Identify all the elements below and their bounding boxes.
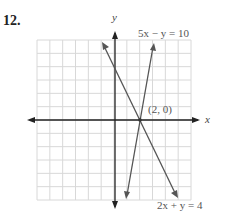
coordinate-plane bbox=[0, 0, 228, 223]
line2-label: 2x + y = 4 bbox=[157, 199, 202, 211]
y-axis-label: y bbox=[112, 11, 117, 23]
intersection-point bbox=[138, 118, 142, 122]
x-axis-label: x bbox=[205, 113, 210, 125]
y-axis-arrow-down-icon bbox=[112, 201, 118, 209]
x-axis-arrow-left-icon bbox=[27, 117, 35, 123]
x-axis-arrow-right-icon bbox=[192, 117, 200, 123]
y-axis-arrow-up-icon bbox=[112, 31, 118, 39]
line1-label: 5x − y = 10 bbox=[138, 27, 189, 39]
point-label: (2, 0) bbox=[148, 103, 172, 115]
